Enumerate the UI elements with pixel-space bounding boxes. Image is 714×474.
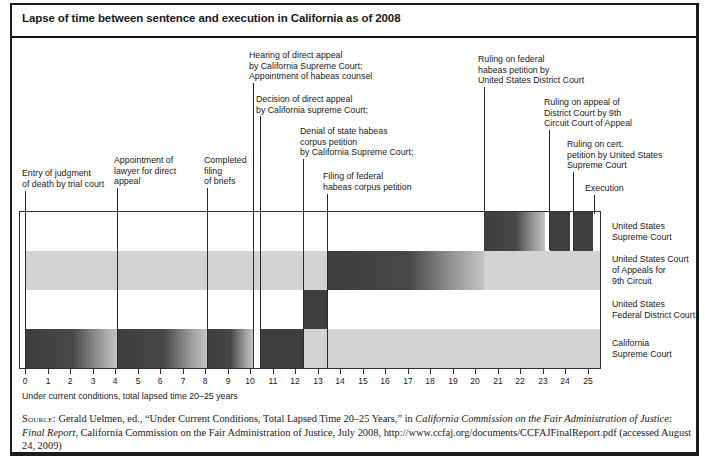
annotation-label: Completedfilingof briefs (204, 155, 247, 187)
axis-tick (363, 369, 364, 374)
annotation-label: Filing of federalhabeas corpus petition (323, 171, 412, 192)
axis-tick (25, 369, 26, 374)
axis-tick (588, 369, 589, 374)
bar-segment (484, 212, 545, 251)
source-text: Gerald Uelmen, ed., “Under Current Condi… (22, 413, 691, 451)
source-label: Source: (22, 413, 56, 424)
annotation-leader-line (303, 159, 304, 369)
axis-tick-label: 1 (38, 376, 58, 386)
annotation-label: Denial of state habeascorpus petitionby … (300, 126, 413, 158)
row-band (303, 329, 600, 368)
annotation-label: Decision of direct appealby California s… (256, 94, 368, 115)
bar-segment (25, 329, 117, 368)
axis-tick-label: 11 (263, 376, 283, 386)
axis-tick-label: 5 (128, 376, 148, 386)
axis-tick-label: 20 (465, 376, 485, 386)
bar-segment (550, 212, 569, 251)
axis-tick (160, 369, 161, 374)
title-rule (12, 36, 697, 38)
axis-tick-label: 24 (555, 376, 575, 386)
axis-tick (340, 369, 341, 374)
axis-tick-label: 14 (330, 376, 350, 386)
axis-tick (543, 369, 544, 374)
annotation-leader-line (25, 191, 26, 369)
annotation-leader-line (260, 116, 261, 369)
axis-tick (408, 369, 409, 374)
bar-segment (327, 251, 485, 290)
source-citation: Source: Gerald Uelmen, ed., “Under Curre… (22, 412, 694, 453)
axis-tick (48, 369, 49, 374)
axis-tick (115, 369, 116, 374)
annotation-leader-line (327, 194, 328, 369)
axis-tick (250, 369, 251, 374)
row-label: United StatesSupreme Court (612, 221, 672, 243)
bar-segment (573, 212, 593, 251)
plot-top-border (19, 211, 601, 212)
axis-tick-label: 8 (195, 376, 215, 386)
axis-tick-label: 21 (488, 376, 508, 386)
plot-left-border (19, 211, 20, 369)
axis-tick (205, 369, 206, 374)
x-axis-line (19, 368, 601, 369)
axis-tick (138, 369, 139, 374)
axis-tick-label: 15 (353, 376, 373, 386)
annotation-leader-line (117, 188, 118, 369)
axis-tick-label: 10 (240, 376, 260, 386)
annotation-label: Ruling on appeal ofDistrict Court by 9th… (544, 97, 632, 129)
row-label: United StatesFederal District Court (612, 299, 695, 321)
axis-tick-label: 7 (173, 376, 193, 386)
annotation-label: Ruling on federalhabeas petition byUnite… (478, 54, 584, 86)
annotation-label: Entry of judgmentof death by trial court (22, 168, 104, 189)
axis-tick (520, 369, 521, 374)
bar-segment (303, 290, 327, 329)
axis-tick (385, 369, 386, 374)
axis-tick (475, 369, 476, 374)
annotation-label: Appointment oflawyer for directappeal (114, 155, 176, 187)
plot-right-border (600, 211, 601, 369)
axis-tick-label: 19 (443, 376, 463, 386)
axis-tick (453, 369, 454, 374)
bar-segment (117, 329, 207, 368)
axis-tick-label: 25 (578, 376, 598, 386)
axis-tick-label: 22 (510, 376, 530, 386)
axis-tick-label: 9 (218, 376, 238, 386)
axis-tick (273, 369, 274, 374)
axis-tick (318, 369, 319, 374)
annotation-leader-line (484, 87, 485, 214)
axis-tick-label: 13 (308, 376, 328, 386)
axis-tick (295, 369, 296, 374)
axis-tick (430, 369, 431, 374)
row-band (25, 251, 600, 290)
annotation-label: Ruling on cert.petition by United States… (567, 139, 662, 171)
row-label: CaliforniaSupreme Court (612, 338, 672, 360)
axis-note: Under current conditions, total lapsed t… (22, 391, 238, 401)
screenshot-page: Lapse of time between sentence and execu… (0, 0, 714, 474)
axis-tick-label: 23 (533, 376, 553, 386)
axis-tick (498, 369, 499, 374)
axis-tick (565, 369, 566, 374)
axis-tick (93, 369, 94, 374)
bar-segment (260, 329, 303, 368)
axis-tick (183, 369, 184, 374)
axis-tick-label: 16 (375, 376, 395, 386)
axis-tick (70, 369, 71, 374)
annotation-leader-line (253, 83, 254, 369)
axis-tick-label: 6 (150, 376, 170, 386)
axis-tick-label: 3 (83, 376, 103, 386)
annotation-leader-line (549, 130, 550, 250)
row-label: United States Courtof Appeals for9th Cir… (612, 254, 689, 287)
axis-tick (228, 369, 229, 374)
bar-segment (207, 329, 253, 368)
annotation-label: Hearing of direct appealby California Su… (249, 50, 372, 82)
axis-tick-label: 18 (420, 376, 440, 386)
chart-title: Lapse of time between sentence and execu… (22, 12, 662, 24)
axis-tick-label: 4 (105, 376, 125, 386)
axis-tick-label: 2 (60, 376, 80, 386)
annotation-label: Execution (585, 183, 624, 194)
axis-tick-label: 12 (285, 376, 305, 386)
axis-tick-label: 17 (398, 376, 418, 386)
axis-tick-label: 0 (15, 376, 35, 386)
annotation-leader-line (207, 188, 208, 369)
